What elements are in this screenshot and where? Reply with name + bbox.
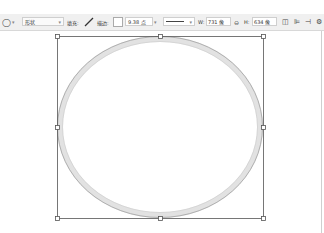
handle-middle-left[interactable] (56, 126, 60, 130)
ellipse-shape-layer[interactable] (0, 0, 324, 233)
handle-bottom-right[interactable] (262, 217, 266, 221)
handle-bottom-center[interactable] (159, 217, 163, 221)
handle-top-center[interactable] (159, 35, 163, 39)
ellipse-stroke[interactable] (60, 39, 260, 215)
ellipse-inner-edge (63, 42, 258, 213)
handle-middle-right[interactable] (262, 126, 266, 130)
handle-top-right[interactable] (262, 35, 266, 39)
handle-top-left[interactable] (56, 35, 60, 39)
handle-bottom-left[interactable] (56, 217, 60, 221)
